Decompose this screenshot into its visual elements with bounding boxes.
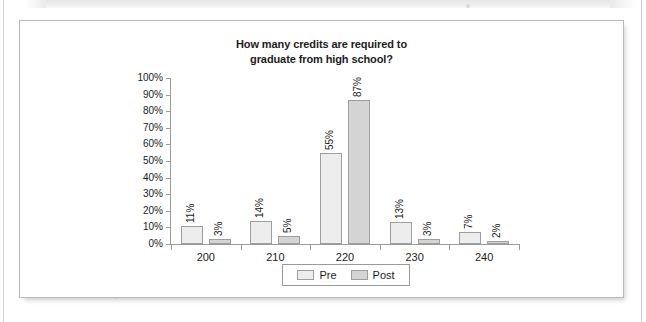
scan-speck: [466, 4, 470, 8]
x-axis-category-label: 230: [380, 251, 450, 263]
x-axis-tick: [519, 245, 520, 250]
chart-card: ~ How many credits are required to gradu…: [19, 20, 624, 298]
bar-post-230[interactable]: 3%: [418, 239, 440, 244]
y-axis-tick: [166, 78, 171, 79]
chart-title-line-2: graduate from high school?: [20, 52, 623, 67]
bar-pre-210[interactable]: 14%: [250, 221, 272, 244]
y-axis-tick: [166, 95, 171, 96]
y-axis-tick: [166, 178, 171, 179]
x-axis-tick: [380, 245, 381, 250]
y-axis-tick: [166, 144, 171, 145]
bar-value-label: 3%: [213, 222, 224, 236]
legend-label-post: Post: [373, 269, 395, 281]
y-axis-tick: [166, 211, 171, 212]
bar-post-220[interactable]: 87%: [348, 100, 370, 244]
y-axis-tick-label: 60%: [143, 138, 163, 149]
y-axis-tick-label: 90%: [143, 89, 163, 100]
y-axis-tick: [166, 111, 171, 112]
bar-group: 55%87%: [320, 78, 370, 244]
legend-item-pre[interactable]: Pre: [297, 269, 336, 281]
scan-speck-secondary: ~: [112, 296, 117, 301]
legend-label-pre: Pre: [319, 269, 336, 281]
bar-value-label: 11%: [185, 203, 196, 222]
legend-swatch-pre-icon: [297, 270, 314, 280]
bar-value-label: 14%: [254, 198, 265, 218]
page-edge-rule-left: [3, 0, 4, 322]
y-axis-tick-label: 0%: [149, 238, 163, 249]
bar-group: 13%3%: [390, 78, 440, 244]
bar-value-label: 55%: [324, 130, 335, 150]
x-axis-tick: [310, 245, 311, 250]
bar-value-label: 5%: [282, 218, 293, 232]
scan-strip-left-fade: [24, 0, 48, 8]
bar-group: 7%2%: [459, 78, 509, 244]
y-axis-tick-label: 80%: [143, 105, 163, 116]
scan-strip-top: [46, 0, 612, 8]
bar-pre-240[interactable]: 7%: [459, 232, 481, 244]
y-axis-tick: [166, 161, 171, 162]
y-axis-tick-label: 40%: [143, 172, 163, 183]
x-axis-category-label: 220: [310, 251, 380, 263]
bar-pre-200[interactable]: 11%: [181, 226, 203, 244]
y-axis-tick: [166, 227, 171, 228]
x-axis-category-label: 200: [171, 251, 241, 263]
bar-value-label: 2%: [491, 223, 502, 237]
x-axis-category-label: 240: [449, 251, 519, 263]
y-axis-tick: [166, 194, 171, 195]
chart-title-line-1: How many credits are required to: [20, 37, 623, 52]
x-axis-line: [170, 244, 520, 245]
bar-value-label: 7%: [463, 215, 474, 229]
bar-post-210[interactable]: 5%: [278, 236, 300, 244]
y-axis-tick-label: 50%: [143, 155, 163, 166]
x-axis-category-label: 210: [240, 251, 310, 263]
plot-area: 0%10%20%30%40%50%60%70%80%90%100% 11%3%1…: [171, 78, 519, 244]
scan-strip-right-fade: [610, 0, 636, 8]
y-axis-tick-label: 10%: [143, 221, 163, 232]
x-axis-tick: [171, 245, 172, 250]
page-edge-rule-right: [641, 0, 642, 322]
y-axis-tick: [166, 128, 171, 129]
chart-legend[interactable]: Pre Post: [282, 264, 410, 286]
bar-value-label: 13%: [394, 199, 405, 219]
chart-title: How many credits are required to graduat…: [20, 37, 623, 67]
bar-pre-230[interactable]: 13%: [390, 222, 412, 244]
bar-group: 14%5%: [250, 78, 300, 244]
page-root: ~ How many credits are required to gradu…: [0, 0, 646, 322]
bar-post-240[interactable]: 2%: [487, 241, 509, 244]
bar-value-label: 87%: [352, 77, 363, 97]
y-axis-tick-label: 20%: [143, 205, 163, 216]
bar-pre-220[interactable]: 55%: [320, 153, 342, 244]
y-axis-tick-label: 70%: [143, 122, 163, 133]
bar-post-200[interactable]: 3%: [209, 239, 231, 244]
x-axis-tick: [449, 245, 450, 250]
bar-value-label: 3%: [422, 222, 433, 236]
x-axis-tick: [241, 245, 242, 250]
y-axis-tick-label: 30%: [143, 188, 163, 199]
legend-item-post[interactable]: Post: [351, 269, 395, 281]
legend-swatch-post-icon: [351, 270, 368, 280]
y-axis-tick-label: 100%: [137, 72, 163, 83]
bar-group: 11%3%: [181, 78, 231, 244]
